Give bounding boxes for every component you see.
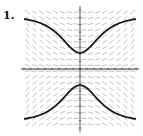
- slope-segment: [116, 16, 120, 20]
- slope-segment: [39, 16, 43, 20]
- slope-segment: [131, 51, 135, 55]
- slope-segment: [95, 29, 100, 32]
- slope-segment: [60, 111, 65, 113]
- slope-segment: [95, 12, 100, 13]
- slope-segment: [25, 58, 30, 61]
- slope-segment: [40, 34, 44, 38]
- slope-segment: [74, 106, 80, 107]
- slope-segment: [53, 17, 58, 20]
- slope-segment: [109, 123, 114, 126]
- slope-segment: [32, 58, 37, 61]
- slope-segment: [60, 82, 65, 84]
- slope-segment: [88, 100, 93, 102]
- slope-segment: [26, 92, 29, 97]
- slope-segment: [116, 65, 121, 66]
- slope-segment: [81, 41, 87, 42]
- slope-segment: [102, 17, 107, 20]
- slope-segment: [53, 46, 58, 49]
- slope-segment: [130, 76, 135, 79]
- slope-segment: [32, 81, 36, 85]
- slope-segment: [130, 58, 135, 61]
- slope-segment: [33, 110, 37, 114]
- slope-segment: [53, 117, 58, 120]
- slope-segment: [46, 34, 50, 38]
- slope-segment: [32, 11, 37, 14]
- slope-segment: [46, 71, 52, 72]
- slope-segment: [124, 98, 127, 103]
- slope-segment: [131, 104, 134, 109]
- slope-segment: [25, 64, 30, 66]
- slope-segment: [74, 47, 80, 48]
- slope-segment: [95, 124, 100, 126]
- slope-segment: [33, 28, 37, 33]
- slope-segment: [39, 81, 44, 84]
- slope-segment: [116, 11, 121, 14]
- slope-segment: [53, 123, 58, 125]
- slope-segment: [67, 112, 72, 114]
- slope-segment: [25, 76, 30, 79]
- slope-segment: [26, 98, 29, 103]
- slope-segment: [88, 77, 94, 78]
- slope-segment: [102, 46, 107, 49]
- slope-segment: [109, 34, 113, 38]
- slope-segment: [39, 76, 44, 78]
- slope-segment: [123, 58, 128, 61]
- slope-segment: [60, 65, 66, 66]
- slope-segment: [46, 105, 50, 109]
- slope-segment: [123, 81, 127, 85]
- slope-segment: [130, 71, 136, 72]
- slope-segment: [26, 33, 29, 38]
- slope-segment: [102, 117, 107, 120]
- slope-segment: [60, 17, 65, 19]
- slope-segment: [60, 124, 65, 126]
- slope-segment: [46, 40, 50, 44]
- slope-segment: [102, 93, 107, 96]
- slope-segment: [25, 122, 29, 126]
- slope-segment: [131, 33, 134, 38]
- slope-segment: [95, 117, 100, 119]
- slope-segment: [109, 52, 114, 55]
- slope-segment: [81, 30, 87, 31]
- slope-segment: [124, 45, 128, 49]
- slope-segment: [116, 123, 121, 126]
- slope-segment: [124, 110, 128, 114]
- slope-segment: [123, 71, 129, 72]
- slope-segment: [117, 104, 121, 108]
- slope-segment: [67, 29, 72, 31]
- slope-segment: [25, 10, 30, 13]
- slope-segment: [116, 71, 122, 72]
- slope-segment: [124, 104, 127, 109]
- slope-segment: [46, 117, 51, 120]
- slope-segment: [39, 87, 43, 91]
- slope-segment: [25, 71, 31, 72]
- slope-segment: [81, 106, 87, 107]
- slope-segment: [95, 46, 100, 48]
- slope-segment: [95, 94, 100, 97]
- slope-segment: [53, 71, 59, 72]
- slope-segment: [130, 122, 134, 126]
- slope-segment: [123, 16, 127, 20]
- slope-segment: [32, 16, 36, 20]
- slope-segment: [109, 117, 114, 120]
- slope-segment: [39, 117, 43, 121]
- slope-segment: [39, 11, 44, 14]
- slope-segment: [46, 58, 51, 60]
- slope-segment: [117, 40, 121, 44]
- slope-segment: [123, 123, 128, 126]
- slope-segment: [26, 51, 30, 55]
- slope-segment: [67, 12, 73, 13]
- slope-segment: [95, 23, 100, 25]
- slope-segment: [88, 35, 93, 37]
- slope-segment: [81, 24, 87, 25]
- slope-segment: [109, 87, 113, 91]
- slope-segment: [46, 65, 52, 66]
- slope-segment: [131, 87, 135, 92]
- slope-segment: [124, 28, 128, 33]
- slope-segment: [26, 104, 29, 109]
- slope-segment: [109, 93, 113, 97]
- slope-segment: [67, 59, 73, 60]
- axes: [21, 6, 139, 132]
- slope-segment: [109, 99, 113, 103]
- slope-segment: [109, 71, 115, 72]
- slope-segment: [46, 99, 50, 103]
